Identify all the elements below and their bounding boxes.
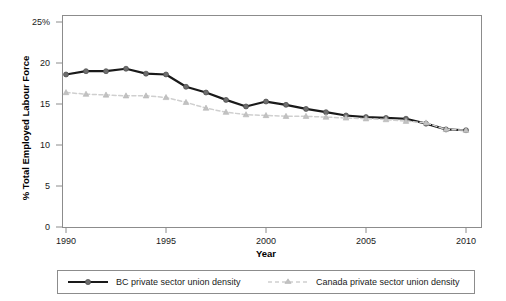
x-tick-label: 2005 bbox=[356, 236, 376, 246]
y-axis-title: % Total Employed Labour Force bbox=[20, 56, 31, 200]
data-point-marker bbox=[164, 72, 169, 77]
data-point-marker bbox=[124, 66, 129, 71]
y-tick-label: 25% bbox=[32, 17, 50, 27]
legend-label-bc: BC private sector union density bbox=[116, 277, 241, 287]
circle-icon bbox=[85, 279, 90, 284]
y-tick-label: 5 bbox=[45, 181, 50, 191]
y-tick-label: 0 bbox=[45, 222, 50, 232]
data-point-marker bbox=[264, 99, 269, 104]
x-axis-title: Year bbox=[256, 248, 276, 259]
data-point-marker bbox=[144, 71, 149, 76]
legend-label-canada: Canada private sector union density bbox=[316, 277, 460, 287]
y-tick-label: 20 bbox=[40, 58, 50, 68]
figure-background bbox=[0, 0, 506, 301]
y-tick-label: 15 bbox=[40, 99, 50, 109]
chart-figure: % Total Employed Labour Force 25% 20 15 … bbox=[0, 0, 506, 301]
x-tick-label: 2010 bbox=[456, 236, 476, 246]
data-point-marker bbox=[244, 104, 249, 109]
x-tick-label: 1990 bbox=[56, 236, 76, 246]
data-point-marker bbox=[84, 69, 89, 74]
data-point-marker bbox=[204, 90, 209, 95]
data-point-marker bbox=[104, 69, 109, 74]
data-point-marker bbox=[284, 102, 289, 107]
x-tick-label: 1995 bbox=[156, 236, 176, 246]
y-tick-label: 10 bbox=[40, 140, 50, 150]
union-density-line-chart: % Total Employed Labour Force 25% 20 15 … bbox=[0, 0, 506, 301]
data-point-marker bbox=[64, 72, 69, 77]
data-point-marker bbox=[304, 106, 309, 111]
data-point-marker bbox=[224, 97, 229, 102]
data-point-marker bbox=[184, 84, 189, 89]
x-tick-label: 2000 bbox=[256, 236, 276, 246]
